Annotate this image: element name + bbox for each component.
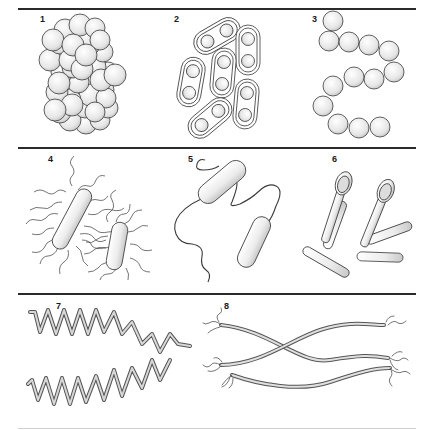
panel-3-streptococci	[313, 11, 404, 138]
panel-4-peritrichous-bacilli	[26, 156, 152, 280]
bacteria-illustration	[0, 0, 429, 430]
panel-6-spore-bacilli	[301, 169, 413, 278]
panel-1-staphylococci	[39, 14, 126, 134]
panel-7-spirilla	[28, 310, 190, 404]
panel-5-flagellated-bacilli	[175, 156, 280, 282]
panel-2-diplococci	[175, 13, 260, 143]
panel-8-filaments	[203, 308, 410, 388]
